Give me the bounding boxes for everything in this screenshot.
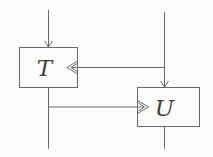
diagram-canvas: T U (0, 0, 213, 157)
node-u-label: U (155, 95, 176, 121)
figure-block-diagram: T U (0, 0, 213, 157)
node-t-label: T (37, 55, 54, 81)
